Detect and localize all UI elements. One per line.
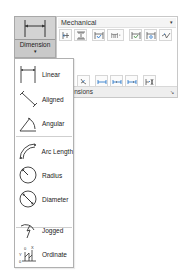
menu-item-label: Arc Length xyxy=(42,148,73,155)
continue-button[interactable] xyxy=(74,29,87,41)
menu-item-arc-length[interactable]: Arc Length xyxy=(15,139,73,163)
dimension-break-icon xyxy=(111,31,121,40)
reassociate-icon xyxy=(146,31,156,40)
ribbon-panel-footer[interactable]: Dimensions ↘ xyxy=(57,86,177,97)
override-icon xyxy=(145,77,155,86)
menu-separator xyxy=(16,136,72,137)
radius-icon xyxy=(18,165,38,185)
dimension-split-button[interactable]: Dimension ▾ xyxy=(14,16,56,58)
chevron-down-icon: ▾ xyxy=(15,48,55,54)
oblique-icon xyxy=(79,77,89,86)
menu-item-linear[interactable]: Linear xyxy=(15,62,73,86)
svg-text:X: X xyxy=(31,245,34,250)
text-angle-left-icon xyxy=(97,77,107,86)
reassociate-button[interactable] xyxy=(144,29,157,41)
menu-item-label: Radius xyxy=(42,172,62,179)
continue-icon xyxy=(76,31,86,40)
menu-item-label: Linear xyxy=(42,71,60,78)
adjust-space-button[interactable] xyxy=(129,29,142,41)
adjust-space-icon xyxy=(131,31,141,40)
dimension-style-value: Mechanical xyxy=(61,18,96,27)
menu-item-ordinate[interactable]: 0XY0 Ordinate xyxy=(15,242,73,266)
inspection-button[interactable] xyxy=(92,29,105,41)
menu-item-label: Aligned xyxy=(42,96,64,103)
menu-item-jogged[interactable]: Jogged xyxy=(15,218,73,242)
baseline-button[interactable] xyxy=(59,29,72,41)
dimension-style-select[interactable]: Mechanical ▾ xyxy=(58,18,176,28)
jog-line-button[interactable] xyxy=(159,29,172,41)
menu-item-aligned[interactable]: Aligned xyxy=(15,87,73,111)
jog-line-icon xyxy=(161,31,171,40)
menu-item-label: Angular xyxy=(42,120,64,127)
linear-icon xyxy=(18,64,38,84)
dialog-launcher-icon[interactable]: ↘ xyxy=(170,87,174,97)
text-angle-center-icon xyxy=(112,77,122,86)
menu-item-angular[interactable]: Angular xyxy=(15,111,73,135)
text-angle-right-icon xyxy=(127,77,137,86)
jogged-icon xyxy=(18,220,38,240)
menu-item-label: Ordinate xyxy=(42,251,67,258)
menu-item-label: Diameter xyxy=(42,196,68,203)
ordinate-icon: 0XY0 xyxy=(18,244,38,264)
menu-item-label: Jogged xyxy=(42,227,63,234)
baseline-icon xyxy=(61,31,71,40)
svg-text:Y: Y xyxy=(19,252,22,257)
dimensions-ribbon-panel: Mechanical ▾ xyxy=(56,16,178,98)
arc-length-icon xyxy=(18,141,38,161)
dimension-button-top[interactable] xyxy=(15,17,55,40)
dimension-dropdown-menu: Linear Aligned Angular Arc Length Radius… xyxy=(14,58,74,268)
svg-text:0: 0 xyxy=(19,259,22,264)
ribbon-tools-row-1 xyxy=(59,29,172,41)
diameter-icon xyxy=(18,189,38,209)
aligned-icon xyxy=(18,89,38,109)
menu-item-diameter[interactable]: Diameter xyxy=(15,187,73,211)
chevron-down-icon: ▾ xyxy=(170,18,173,27)
angular-icon xyxy=(18,113,38,133)
dimension-break-button[interactable] xyxy=(107,29,124,41)
menu-item-radius[interactable]: Radius xyxy=(15,163,73,187)
linear-dimension-icon xyxy=(21,19,49,37)
inspection-icon xyxy=(94,31,104,40)
svg-text:0: 0 xyxy=(24,246,27,251)
